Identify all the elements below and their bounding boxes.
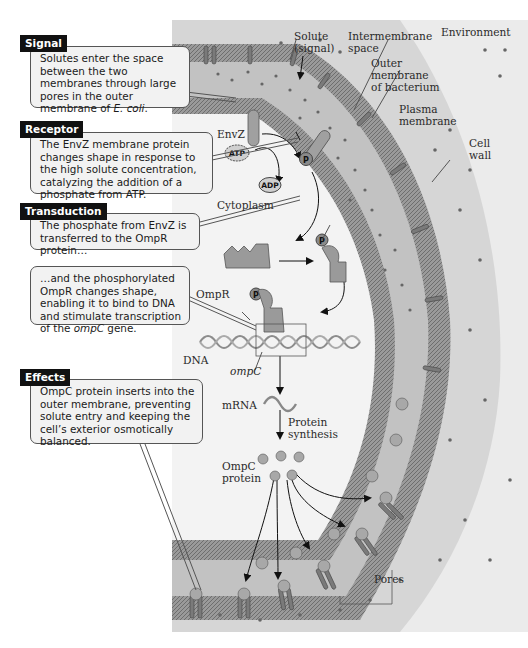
signal-tag: Signal	[20, 35, 67, 52]
effects-callout: OmpC protein inserts into the outer memb…	[30, 379, 203, 444]
signal-callout: Solutes enter the space between the two …	[30, 46, 190, 108]
ompc-protein-label: OmpCprotein	[222, 460, 261, 484]
transduction2-text-italic: ompC	[74, 322, 104, 334]
svg-text:P: P	[319, 237, 325, 246]
transduction2-text-post: gene.	[104, 322, 137, 334]
svg-text:ADP: ADP	[261, 181, 279, 190]
effects-tag: Effects	[20, 369, 70, 386]
signal-text-post: .	[145, 102, 148, 114]
transduction-callout-2: …and the phosphorylated OmpR changes sha…	[30, 266, 190, 325]
svg-text:P: P	[303, 156, 309, 165]
environment-label: Environment	[441, 26, 511, 38]
ompr-label: OmpR	[196, 288, 230, 300]
dna-label: DNA	[183, 354, 208, 366]
receptor-callout: The EnvZ membrane protein changes shape …	[30, 132, 213, 194]
solute-label: Solute(signal)	[294, 30, 334, 54]
ompc-gene-label: ompC	[230, 365, 261, 377]
effects-text: OmpC protein inserts into the outer memb…	[40, 385, 194, 447]
receptor-tag: Receptor	[20, 121, 83, 138]
signal-text-italic: E. coli	[113, 102, 144, 114]
mrna-label: mRNA	[222, 399, 257, 411]
pores-label: Pores	[374, 573, 404, 585]
receptor-text: The EnvZ membrane protein changes shape …	[40, 138, 197, 200]
cytoplasm-label: Cytoplasm	[217, 199, 274, 211]
envz-inactive-icon	[248, 110, 259, 146]
signal-text-pre: Solutes enter the space between the two …	[40, 52, 176, 114]
cell-signaling-diagram: P P P ATP ADP	[0, 0, 528, 648]
svg-text:P: P	[253, 291, 259, 300]
intermembrane-space-label: Intermembranespace	[348, 30, 432, 54]
outer-membrane-label: Outermembraneof bacterium	[371, 57, 440, 93]
cell-cross-section: P P P ATP ADP	[172, 20, 528, 632]
envz-label: EnvZ	[217, 128, 245, 140]
plasma-membrane-label: Plasmamembrane	[399, 103, 457, 127]
transduction-tag: Transduction	[20, 203, 107, 220]
cell-wall-label: Cellwall	[469, 137, 491, 161]
protein-synthesis-label: Proteinsynthesis	[288, 416, 338, 440]
